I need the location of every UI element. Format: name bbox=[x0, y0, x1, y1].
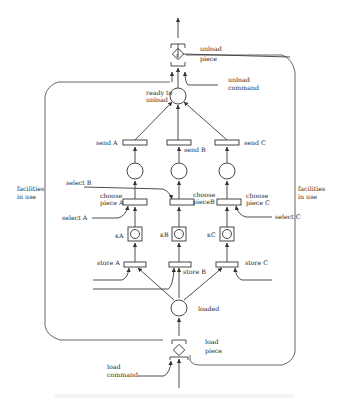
transition-send-b bbox=[167, 140, 191, 145]
place-buffer-a bbox=[127, 163, 143, 179]
store-a-label: store A bbox=[97, 259, 120, 266]
unload-piece-label: unload bbox=[200, 45, 222, 52]
transition-choose-a bbox=[123, 199, 147, 205]
choose-b-label-2: pieceB bbox=[193, 198, 215, 206]
send-c-label: send C bbox=[244, 139, 266, 146]
select-b-label: select B bbox=[66, 179, 92, 186]
petri-net-diagram: r unload piece unload command ready to u… bbox=[0, 0, 344, 406]
kappa-c-label: κC bbox=[207, 231, 216, 238]
place-kappa-b bbox=[172, 227, 186, 241]
transition-send-a bbox=[123, 140, 147, 145]
select-b-arc bbox=[84, 187, 172, 199]
store-b-label: store B bbox=[183, 268, 206, 275]
kappa-a-label: κA bbox=[115, 232, 124, 239]
transition-store-a bbox=[124, 262, 146, 267]
choose-a-label-2: piece A bbox=[100, 199, 124, 207]
load-piece-transition bbox=[170, 340, 188, 360]
transition-choose-c bbox=[217, 199, 241, 205]
load-command-label-2: command bbox=[107, 371, 138, 378]
send-b-label: send B bbox=[184, 146, 206, 153]
transition-choose-b bbox=[170, 199, 194, 205]
store-c-label: store C bbox=[245, 259, 268, 266]
place-loaded bbox=[171, 300, 187, 316]
select-a-arc bbox=[92, 206, 128, 218]
load-command-label: load bbox=[107, 363, 121, 370]
facilities-left-label: facilities bbox=[17, 185, 44, 192]
load-command-arc bbox=[138, 361, 171, 376]
choose-a-label: choose bbox=[100, 192, 122, 199]
select-c-arc bbox=[236, 206, 272, 217]
transition-store-b bbox=[169, 262, 191, 267]
figure-caption bbox=[55, 394, 295, 398]
unload-command-label-2: command bbox=[228, 84, 259, 91]
facilities-loop-right bbox=[186, 55, 295, 365]
unload-piece-label-2: piece bbox=[200, 55, 217, 63]
choose-c-label: choose bbox=[246, 192, 268, 199]
load-piece-label: load bbox=[205, 338, 219, 345]
choose-b-label: choose bbox=[193, 191, 215, 198]
place-buffer-c bbox=[219, 163, 235, 179]
transition-store-c bbox=[216, 262, 238, 267]
facilities-loop-left bbox=[45, 82, 170, 340]
place-buffer-b bbox=[171, 163, 187, 179]
choose-c-label-2: piece C bbox=[246, 199, 270, 207]
place-kappa-c bbox=[220, 227, 234, 241]
facilities-right-label-2: in use bbox=[298, 193, 317, 200]
send-a-label: send A bbox=[96, 139, 118, 146]
loaded-label: loaded bbox=[198, 305, 219, 312]
ready-to-unload-label-2: unload bbox=[146, 96, 168, 103]
kappa-b-label: κB bbox=[160, 231, 169, 238]
place-kappa-a bbox=[128, 227, 142, 241]
select-a-label: select A bbox=[62, 214, 88, 221]
facilities-right-label: facilities bbox=[298, 185, 325, 192]
facilities-left-label-2: in use bbox=[17, 193, 36, 200]
unload-command-arc bbox=[185, 72, 218, 85]
transition-send-c bbox=[215, 140, 239, 145]
select-c-label: select C bbox=[275, 213, 301, 220]
load-piece-label-2: piece bbox=[205, 347, 222, 355]
unload-command-label: unload bbox=[228, 76, 250, 83]
